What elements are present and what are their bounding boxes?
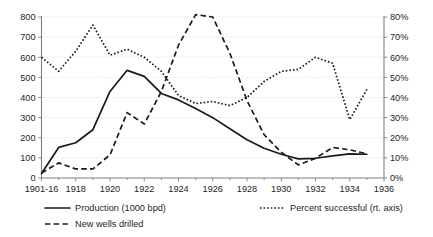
y-axis-tick-label: 300 (20, 113, 35, 123)
y-axis-tick-label: 200 (20, 133, 35, 143)
y-axis-tick-label: 500 (20, 73, 35, 83)
x-axis-tick-label: 1922 (134, 184, 154, 194)
legend-label: New wells drilled (75, 219, 143, 229)
y2-axis-tick-label: 70% (390, 32, 408, 42)
y-axis-tick-label: 600 (20, 53, 35, 63)
y2-axis-tick-label: 80% (390, 12, 408, 22)
x-axis-tick-label: 1928 (237, 184, 257, 194)
x-axis-tick-label: 1934 (340, 184, 360, 194)
chart-container: 0100200300400500600700800 0%10%20%30%40%… (0, 0, 433, 237)
x-axis-tick-label: 1932 (305, 184, 325, 194)
line-chart: 0100200300400500600700800 0%10%20%30%40%… (0, 0, 433, 237)
y2-axis-tick-labels: 0%10%20%30%40%50%60%70%80% (390, 12, 408, 183)
chart-background (0, 0, 433, 237)
x-axis-tick-label: 1901-16 (25, 184, 59, 194)
y2-axis-tick-label: 30% (390, 113, 408, 123)
y-axis-tick-label: 700 (20, 32, 35, 42)
y2-axis-tick-label: 0% (390, 173, 403, 183)
x-axis-tick-labels: 1901-16191819201922192419261928193019321… (25, 184, 395, 194)
legend-label: Production (1000 bpd) (75, 203, 166, 213)
y-axis-tick-label: 800 (20, 12, 35, 22)
x-axis-tick-label: 1920 (100, 184, 120, 194)
x-axis-tick-label: 1930 (271, 184, 291, 194)
y-axis-tick-label: 100 (20, 153, 35, 163)
y-axis-tick-label: 400 (20, 93, 35, 103)
x-axis-tick-label: 1924 (168, 184, 188, 194)
legend-label: Percent successful (rt. axis) (290, 203, 403, 213)
y2-axis-tick-label: 10% (390, 153, 408, 163)
y2-axis-tick-label: 60% (390, 53, 408, 63)
y2-axis-tick-label: 20% (390, 133, 408, 143)
y-axis-tick-label: 0 (30, 173, 35, 183)
x-axis-tick-label: 1926 (203, 184, 223, 194)
y-axis-tick-labels: 0100200300400500600700800 (20, 12, 35, 183)
y2-axis-tick-label: 50% (390, 73, 408, 83)
x-axis-tick-label: 1936 (374, 184, 394, 194)
y2-axis-tick-label: 40% (390, 93, 408, 103)
x-axis-tick-label: 1918 (66, 184, 86, 194)
